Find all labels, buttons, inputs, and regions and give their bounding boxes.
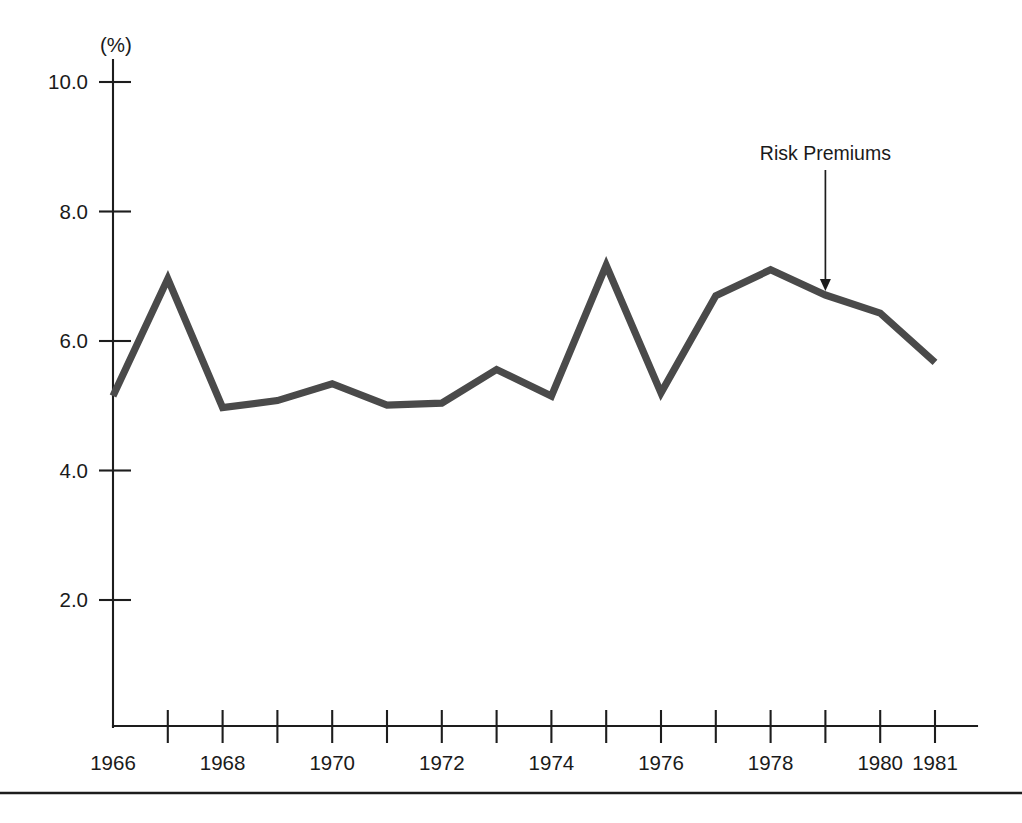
x-tick-label-1980: 1980 [857,751,903,774]
x-tick-label-1970: 1970 [309,751,355,774]
y-tick-label-4.0: 4.0 [60,459,89,482]
y-axis-unit-label: (%) [100,33,132,56]
annotation-arrow-head-risk-premiums [820,279,831,291]
y-axis-ticks [99,82,131,600]
y-axis-tick-labels: 10.08.06.04.02.0 [48,70,88,611]
annotation-label-risk-premiums: Risk Premiums [760,142,891,164]
x-tick-label-1981: 1981 [912,751,958,774]
x-tick-label-1968: 1968 [200,751,246,774]
y-tick-label-2.0: 2.0 [60,588,89,611]
chart-canvas: 10.08.06.04.02.0 19661968197019721974197… [0,0,1022,823]
data-line-risk-premiums [113,265,935,407]
annotation-group: Risk Premiums [760,142,891,291]
y-tick-label-8.0: 8.0 [60,200,89,223]
x-axis-tick-labels: 196619681970197219741976197819801981 [90,751,958,774]
x-tick-label-1976: 1976 [638,751,684,774]
data-series-group [113,265,935,407]
x-tick-label-1978: 1978 [748,751,794,774]
x-tick-label-1972: 1972 [419,751,465,774]
y-tick-label-10.0: 10.0 [48,70,88,93]
y-tick-label-6.0: 6.0 [60,329,89,352]
x-tick-label-1974: 1974 [529,751,575,774]
risk-premiums-line-chart-figure: 10.08.06.04.02.0 19661968197019721974197… [0,0,1022,823]
x-tick-label-1966: 1966 [90,751,136,774]
